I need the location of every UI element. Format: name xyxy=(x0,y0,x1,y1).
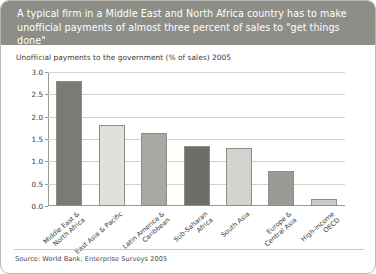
x-axis-label: Sub-SaharanAfrica xyxy=(172,210,215,250)
y-tick-mark xyxy=(45,206,48,207)
figure-title: A typical firm in a Middle East and Nort… xyxy=(17,7,363,48)
chart-figure: A typical firm in a Middle East and Nort… xyxy=(0,0,376,274)
y-axis-label: 1.5 xyxy=(32,135,43,144)
y-axis-label: 3.0 xyxy=(32,68,43,77)
bar-series: Middle East &North AfricaEast Asia & Pac… xyxy=(48,72,345,206)
figure-title-bar: A typical firm in a Middle East and Nort… xyxy=(1,1,376,45)
bar xyxy=(141,133,167,206)
x-axis-label: High-incomeOECD xyxy=(299,210,341,250)
bar xyxy=(268,171,294,206)
y-axis-label: 0.5 xyxy=(32,179,43,188)
bar xyxy=(184,146,210,206)
bar xyxy=(226,148,252,206)
source-divider xyxy=(14,249,364,250)
bar xyxy=(311,199,337,206)
y-axis-label: 1.0 xyxy=(32,157,43,166)
y-axis-label: 2.0 xyxy=(32,112,43,121)
source-note: Source: World Bank, Enterprise Surveys 2… xyxy=(15,255,167,263)
x-axis-label: South Asia xyxy=(219,210,251,239)
bar xyxy=(99,125,125,206)
plot-area: 0.00.51.01.52.02.53.0 Middle East &North… xyxy=(48,72,345,206)
chart-subtitle: Unofficial payments to the government (%… xyxy=(16,53,231,62)
y-axis-label: 2.5 xyxy=(32,90,43,99)
bar xyxy=(56,81,82,206)
y-axis-label: 0.0 xyxy=(32,202,43,211)
x-axis-label: Europe &Central Asia xyxy=(258,210,299,249)
